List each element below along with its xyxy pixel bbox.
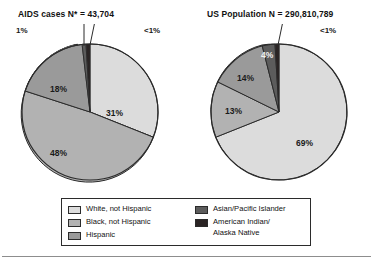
legend-item-white-not-hispanic: White, not Hispanic (68, 204, 196, 216)
legend-column-left: White, not Hispanic Black, not Hispanic … (68, 204, 196, 243)
legend-item-black-not-hispanic: Black, not Hispanic (68, 217, 196, 229)
legend-column-right: Asian/Pacific Islander American Indian/ … (195, 204, 310, 239)
pie-chart-aids-cases: 31% 48% 18% (0, 24, 186, 184)
pie-chart-us-population: 69% 13% 14% 4% (187, 24, 373, 184)
legend-swatch-american-indian-alaska-native (195, 219, 208, 227)
figure-pie-charts: AIDS cases N* = 43,704 US Population N =… (0, 0, 373, 267)
callout-american-indian-right: <1% (320, 26, 336, 35)
leader-line-american-indian-right (278, 24, 347, 45)
legend-item-hispanic: Hispanic (68, 230, 196, 242)
chart-title-aids-cases: AIDS cases N* = 43,704 (18, 9, 114, 19)
legend: White, not Hispanic Black, not Hispanic … (61, 198, 311, 246)
legend-swatch-hispanic (68, 232, 81, 240)
pie-svg-us-population (187, 24, 373, 184)
slice-label-white-right: 69% (296, 138, 313, 148)
slice-label-black-right: 13% (225, 106, 242, 116)
slice-label-black-left: 48% (50, 148, 67, 158)
slice-label-asian-right: 4% (261, 50, 273, 60)
legend-label-hispanic: Hispanic (86, 230, 115, 241)
callout-american-indian-left: <1% (144, 26, 160, 35)
slice-label-hispanic-left: 18% (50, 84, 67, 94)
callout-asian-left: 1% (16, 26, 28, 35)
legend-item-american-indian-alaska-native: American Indian/ Alaska Native (195, 217, 310, 238)
slice-label-hispanic-right: 14% (237, 73, 254, 83)
chart-title-us-population: US Population N = 290,810,789 (207, 9, 333, 19)
legend-label-white-not-hispanic: White, not Hispanic (86, 204, 151, 215)
bottom-divider (2, 256, 371, 257)
leader-line-asian-left (30, 24, 84, 46)
legend-swatch-white-not-hispanic (68, 206, 81, 214)
leader-line-american-indian-left (90, 24, 150, 45)
slice-label-white-left: 31% (106, 108, 123, 118)
legend-swatch-asian-pacific-islander (195, 206, 208, 214)
legend-label-american-indian-alaska-native: American Indian/ Alaska Native (213, 217, 270, 238)
pie-svg-aids-cases (0, 24, 186, 184)
legend-item-asian-pacific-islander: Asian/Pacific Islander (195, 204, 310, 216)
legend-label-black-not-hispanic: Black, not Hispanic (86, 217, 151, 228)
legend-swatch-black-not-hispanic (68, 219, 81, 227)
legend-label-asian-pacific-islander: Asian/Pacific Islander (213, 204, 286, 215)
